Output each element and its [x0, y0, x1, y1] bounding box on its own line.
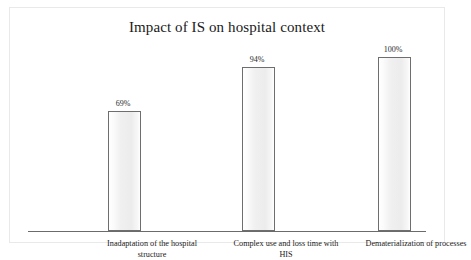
bar-2[interactable]: [242, 67, 275, 231]
bar-category-label-1-line2: structure: [138, 250, 167, 259]
bar-group-1: 69% Inadaptation of the hospital structu…: [77, 28, 227, 242]
bar-value-label-2: 94%: [227, 56, 287, 64]
bar-group-2: 94% Complex use and loss time with HIS: [211, 28, 361, 242]
bar-category-label-2-line2: HIS: [279, 250, 292, 259]
bar-value-label-1: 69%: [93, 100, 153, 108]
bar-category-label-1-line1: Inadaptation of the hospital: [107, 239, 197, 248]
bar-value-label-3: 100%: [363, 46, 423, 54]
bar-1[interactable]: [108, 111, 141, 231]
bar-category-label-2: Complex use and loss time with HIS: [211, 238, 361, 260]
plot-area: 69% Inadaptation of the hospital structu…: [19, 28, 435, 242]
bar-category-label-3-line1: Dematerialization of processes: [366, 239, 467, 248]
chart-frame: Impact of IS on hospital context 69% Ina…: [9, 7, 445, 243]
bar-3[interactable]: [378, 57, 411, 231]
bar-category-label-1: Inadaptation of the hospital structure: [77, 238, 227, 260]
bar-category-label-2-line1: Complex use and loss time with: [234, 239, 339, 248]
bar-category-label-3: Dematerialization of processes: [341, 238, 471, 249]
bar-group-3: 100% Dematerialization of processes: [347, 28, 471, 242]
